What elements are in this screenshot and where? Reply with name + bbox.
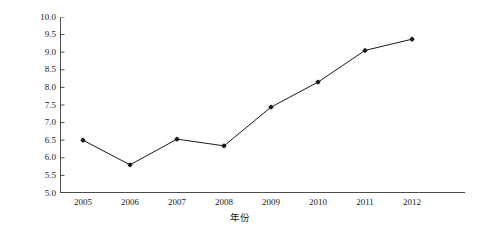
data-point-marker-core — [223, 144, 226, 147]
data-point-marker-core — [317, 81, 320, 84]
y-axis-tick-label: 9.0 — [26, 48, 56, 57]
data-point-marker-core — [364, 49, 367, 52]
axis-tick-marks — [61, 17, 413, 193]
chart-figure: 广东木材产量占全国木材产量的比例(%) 10.09.59.08.58.07.57… — [0, 0, 479, 236]
x-axis-tick-label: 2007 — [153, 198, 201, 207]
data-line-series — [83, 39, 412, 165]
y-axis-tick-label: 6.0 — [26, 153, 56, 162]
data-point-marker-core — [82, 139, 85, 142]
y-axis-tick-label: 10.0 — [26, 13, 56, 22]
x-axis-tick-label: 2009 — [247, 198, 295, 207]
data-point-markers — [80, 36, 414, 167]
x-axis-tick-label: 2010 — [294, 198, 342, 207]
data-point-marker-core — [176, 138, 179, 141]
data-point-marker-core — [411, 38, 414, 41]
data-point-marker-core — [270, 106, 273, 109]
line-chart-svg — [60, 17, 465, 193]
plot-area — [60, 17, 465, 193]
x-axis-tick-label: 2005 — [59, 198, 107, 207]
y-axis-tick-label: 5.0 — [26, 189, 56, 198]
axis-spines — [60, 17, 465, 193]
y-axis-tick-label: 7.5 — [26, 101, 56, 110]
y-axis-tick-label: 5.5 — [26, 171, 56, 180]
y-axis-tick-label: 8.5 — [26, 65, 56, 74]
y-axis-tick-label: 6.5 — [26, 136, 56, 145]
y-axis-tick-labels: 10.09.59.08.58.07.57.06.56.05.55.0 — [23, 0, 56, 236]
y-axis-tick-label: 7.0 — [26, 118, 56, 127]
y-axis-tick-label: 8.0 — [26, 83, 56, 92]
x-axis-tick-label: 2011 — [341, 198, 389, 207]
x-axis-tick-label: 2012 — [388, 198, 436, 207]
x-axis-title: 年份 — [0, 210, 479, 224]
data-point-marker-core — [129, 163, 132, 166]
x-axis-tick-label: 2008 — [200, 198, 248, 207]
y-axis-tick-label: 9.5 — [26, 30, 56, 39]
x-axis-tick-label: 2006 — [106, 198, 154, 207]
